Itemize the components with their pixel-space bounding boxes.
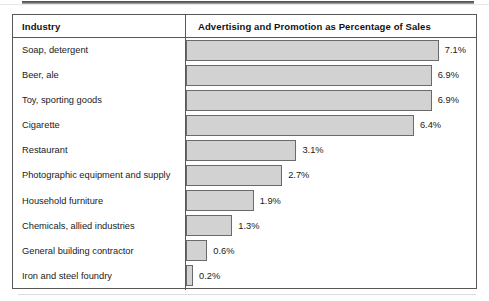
bar xyxy=(186,190,254,211)
bar-track: 3.1% xyxy=(186,138,476,163)
bar-value-label: 2.7% xyxy=(288,163,309,188)
table-row: General building contractor0.6% xyxy=(13,239,476,264)
bar-track: 0.2% xyxy=(186,264,476,289)
industry-advertising-table: Industry Advertising and Promotion as Pe… xyxy=(12,14,477,289)
table-header-row: Industry Advertising and Promotion as Pe… xyxy=(13,15,476,38)
bar xyxy=(186,65,432,86)
bar xyxy=(186,115,414,136)
table-row: Iron and steel foundry0.2% xyxy=(13,264,476,289)
bar-track: 6.4% xyxy=(186,113,476,138)
scan-artifact-bottom-line xyxy=(18,294,476,295)
column-header-industry: Industry xyxy=(22,15,60,38)
bar xyxy=(186,40,439,61)
column-header-metric: Advertising and Promotion as Percentage … xyxy=(198,15,431,38)
bar-track: 7.1% xyxy=(186,38,476,63)
bar-value-label: 1.9% xyxy=(260,189,281,214)
table-row: Chemicals, allied industries1.3% xyxy=(13,214,476,239)
table-row: Toy, sporting goods6.9% xyxy=(13,88,476,113)
bar-value-label: 0.6% xyxy=(213,239,234,264)
bar-track: 1.9% xyxy=(186,189,476,214)
bar-value-label: 7.1% xyxy=(445,38,466,63)
bar-value-label: 1.3% xyxy=(238,214,259,239)
industry-label: Cigarette xyxy=(22,113,60,138)
bar xyxy=(186,90,432,111)
bar-track: 6.9% xyxy=(186,63,476,88)
industry-label: Beer, ale xyxy=(22,63,59,88)
table-row: Household furniture1.9% xyxy=(13,189,476,214)
industry-label: Photographic equipment and supply xyxy=(22,163,170,188)
bar xyxy=(186,165,282,186)
bar-value-label: 6.9% xyxy=(438,88,459,113)
table-body: Soap, detergent7.1%Beer, ale6.9%Toy, spo… xyxy=(13,38,476,289)
industry-label: Iron and steel foundry xyxy=(22,264,112,289)
bar-track: 0.6% xyxy=(186,239,476,264)
bar-track: 6.9% xyxy=(186,88,476,113)
industry-label: Soap, detergent xyxy=(22,38,88,63)
bar-value-label: 0.2% xyxy=(199,264,220,289)
bar xyxy=(186,265,193,286)
bar xyxy=(186,215,232,236)
bar xyxy=(186,140,296,161)
bar xyxy=(186,240,207,261)
industry-label: General building contractor xyxy=(22,239,134,264)
bar-track: 2.7% xyxy=(186,163,476,188)
table-row: Photographic equipment and supply2.7% xyxy=(13,163,476,188)
table-row: Restaurant3.1% xyxy=(13,138,476,163)
industry-label: Chemicals, allied industries xyxy=(22,214,135,239)
table-row: Cigarette6.4% xyxy=(13,113,476,138)
bar-value-label: 3.1% xyxy=(302,138,323,163)
table-row: Soap, detergent7.1% xyxy=(13,38,476,63)
bar-value-label: 6.4% xyxy=(420,113,441,138)
table-row: Beer, ale6.9% xyxy=(13,63,476,88)
industry-label: Restaurant xyxy=(22,138,67,163)
industry-label: Toy, sporting goods xyxy=(22,88,102,113)
bar-value-label: 6.9% xyxy=(438,63,459,88)
bar-track: 1.3% xyxy=(186,214,476,239)
scan-artifact-top-line xyxy=(0,4,489,5)
industry-label: Household furniture xyxy=(22,189,103,214)
